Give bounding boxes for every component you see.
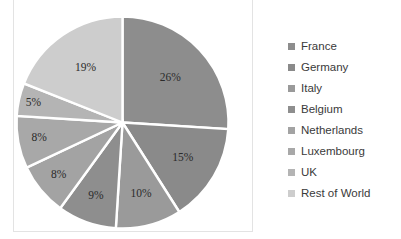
legend-item-rest-of-world[interactable]: Rest of World [288,183,398,204]
legend-item-label: France [301,41,337,53]
slice-label-uk: 5% [26,97,41,109]
legend-item-uk[interactable]: UK [288,162,398,183]
legend-swatch-icon [288,85,295,92]
legend-item-france[interactable]: France [288,36,398,57]
legend-item-luxembourg[interactable]: Luxembourg [288,141,398,162]
chart-legend: FranceGermanyItalyBelgiumNetherlandsLuxe… [288,36,398,204]
legend-item-label: Italy [301,83,322,95]
legend-item-italy[interactable]: Italy [288,78,398,99]
legend-swatch-icon [288,169,295,176]
legend-item-label: Germany [301,62,348,74]
slice-label-france: 26% [160,72,181,84]
legend-swatch-icon [288,106,295,113]
legend-swatch-icon [288,127,295,134]
slice-label-netherlands: 8% [51,169,66,181]
slice-label-luxembourg: 8% [32,133,47,145]
legend-swatch-icon [288,190,295,197]
pie-chart-figure: 26%15%10%9%8%8%5%19% FranceGermanyItalyB… [0,0,401,239]
pie-slices [0,0,256,239]
slice-label-germany: 15% [172,152,193,164]
legend-item-label: Belgium [301,104,343,116]
legend-item-belgium[interactable]: Belgium [288,99,398,120]
slice-label-belgium: 9% [88,191,103,203]
slice-label-italy: 10% [130,189,151,201]
legend-swatch-icon [288,64,295,71]
legend-item-netherlands[interactable]: Netherlands [288,120,398,141]
legend-item-label: Luxembourg [301,146,365,158]
legend-item-label: Rest of World [301,188,370,200]
legend-item-germany[interactable]: Germany [288,57,398,78]
pie-chart-plot: 26%15%10%9%8%8%5%19% [0,0,256,239]
legend-item-label: Netherlands [301,125,363,137]
legend-swatch-icon [288,148,295,155]
legend-item-label: UK [301,167,317,179]
slice-label-rest-of-world: 19% [75,62,96,74]
legend-swatch-icon [288,43,295,50]
